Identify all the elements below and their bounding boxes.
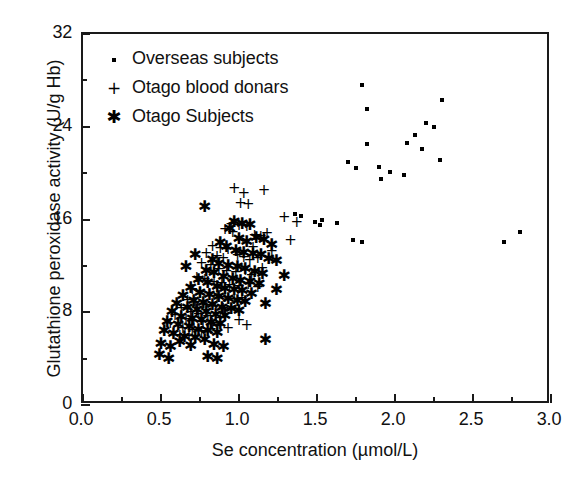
data-point-dot	[346, 160, 350, 164]
x-tick	[472, 394, 474, 403]
scatter-plot-figure: Glutathione peroxidase activity (U/g Hb)…	[0, 0, 580, 480]
x-tick-label: 2.5	[459, 409, 483, 430]
x-tick-label: 3.0	[537, 409, 561, 430]
x-tick	[121, 397, 123, 403]
data-point-star: ✱	[198, 199, 211, 215]
data-point-dot	[402, 173, 406, 177]
x-tick	[511, 397, 513, 403]
x-tick-label: 0.5	[147, 409, 171, 430]
data-point-star: ✱	[184, 338, 197, 354]
data-point-plus: +	[284, 232, 297, 247]
x-tick	[277, 397, 279, 403]
x-tick-label: 0.0	[69, 409, 93, 430]
y-tick	[81, 358, 87, 360]
y-tick	[81, 33, 90, 35]
y-tick	[81, 219, 90, 221]
data-point-star: ✱	[210, 351, 223, 367]
data-point-plus: +	[258, 183, 271, 198]
x-tick	[160, 394, 162, 403]
x-tick	[394, 394, 396, 403]
x-tick	[82, 394, 84, 403]
data-point-dot	[320, 218, 324, 222]
x-tick	[316, 394, 318, 403]
data-point-dot	[413, 133, 417, 137]
data-point-dot	[351, 238, 355, 242]
star-marker-icon: ✱	[96, 106, 132, 127]
legend-item-plus: +Otago blood donars	[96, 73, 346, 102]
data-point-star: ✱	[162, 351, 175, 367]
legend-item-dot: Overseas subjects	[96, 44, 346, 73]
legend: Overseas subjects+Otago blood donars✱Ota…	[96, 44, 346, 131]
data-point-dot	[365, 142, 369, 146]
data-point-dot	[438, 158, 442, 162]
x-axis-title: Se concentration (µmol/L)	[81, 440, 549, 461]
data-point-dot	[360, 240, 364, 244]
y-tick	[81, 126, 90, 128]
data-point-dot	[379, 177, 383, 181]
plus-marker-icon: +	[96, 78, 132, 98]
x-tick	[199, 397, 201, 403]
data-point-dot	[405, 141, 409, 145]
y-tick-label: 16	[32, 207, 72, 228]
x-tick-label: 2.0	[381, 409, 405, 430]
data-point-star: ✱	[189, 247, 202, 263]
data-point-dot	[313, 220, 317, 224]
data-point-star: ✱	[232, 303, 245, 319]
data-point-star: ✱	[259, 332, 272, 348]
x-tick	[550, 394, 552, 403]
x-tick-label: 1.0	[225, 409, 249, 430]
y-tick-label: 24	[32, 114, 72, 135]
data-point-dot	[318, 223, 322, 227]
data-point-dot	[377, 165, 381, 169]
data-point-dot	[432, 125, 436, 129]
data-point-star: ✱	[278, 268, 291, 284]
y-tick-label: 8	[32, 300, 72, 321]
data-point-plus: +	[290, 215, 303, 230]
y-tick	[81, 172, 87, 174]
legend-item-label: Otago Subjects	[132, 106, 254, 127]
legend-item-label: Overseas subjects	[132, 48, 278, 69]
data-point-dot	[388, 170, 392, 174]
dot-marker-icon	[96, 49, 132, 68]
data-point-plus: +	[278, 209, 291, 224]
x-tick-label: 1.5	[303, 409, 327, 430]
y-tick-label: 32	[32, 22, 72, 43]
y-tick	[81, 311, 90, 313]
data-point-dot	[360, 83, 364, 87]
data-point-dot	[518, 230, 522, 234]
y-tick	[81, 265, 87, 267]
y-tick-label: 0	[32, 393, 72, 414]
x-tick	[433, 397, 435, 403]
y-tick	[81, 79, 87, 81]
data-point-plus: +	[242, 196, 255, 211]
data-point-dot	[365, 107, 369, 111]
y-tick	[81, 404, 90, 406]
x-tick	[238, 394, 240, 403]
data-point-dot	[424, 121, 428, 125]
legend-item-label: Otago blood donars	[132, 77, 288, 98]
x-tick	[355, 397, 357, 403]
data-point-dot	[440, 98, 444, 102]
data-point-dot	[502, 240, 506, 244]
legend-item-star: ✱Otago Subjects	[96, 102, 346, 131]
data-point-dot	[335, 221, 339, 225]
data-point-dot	[354, 166, 358, 170]
data-point-dot	[420, 147, 424, 151]
